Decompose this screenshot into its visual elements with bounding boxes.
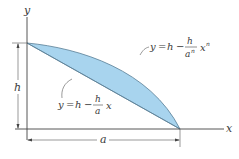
- svg-text:−: −: [176, 41, 184, 52]
- svg-text:y: y: [57, 99, 64, 110]
- svg-text:h: h: [75, 99, 81, 110]
- svg-text:y: y: [149, 41, 156, 52]
- svg-text:a: a: [185, 49, 190, 59]
- svg-text:=: =: [66, 99, 74, 110]
- upper-leader: [140, 47, 149, 55]
- a-label: a: [100, 133, 107, 146]
- y-axis-label: y: [23, 4, 31, 17]
- svg-text:h: h: [167, 41, 173, 52]
- a-arrow-right-icon: [175, 139, 180, 142]
- h-arrow-bottom-icon: [17, 124, 20, 129]
- x-axis-label: x: [226, 122, 233, 135]
- h-arrow-top-icon: [17, 43, 20, 48]
- area-diagram: y x h a y = h − h a n x n y = h − h a x: [0, 0, 239, 159]
- h-label: h: [14, 81, 21, 94]
- a-arrow-left-icon: [27, 139, 32, 142]
- upper-curve-equation: y = h − h a n x n: [149, 36, 210, 59]
- svg-text:n: n: [191, 47, 195, 54]
- lower-line-equation: y = h − h a x: [57, 94, 112, 116]
- svg-text:n: n: [206, 40, 210, 47]
- svg-text:h: h: [95, 94, 101, 104]
- svg-text:h: h: [187, 36, 193, 46]
- lower-line: [27, 43, 180, 129]
- svg-text:x: x: [106, 100, 112, 111]
- svg-text:−: −: [84, 99, 92, 110]
- svg-text:=: =: [158, 41, 166, 52]
- svg-text:a: a: [95, 106, 100, 116]
- lower-leader: [62, 79, 72, 98]
